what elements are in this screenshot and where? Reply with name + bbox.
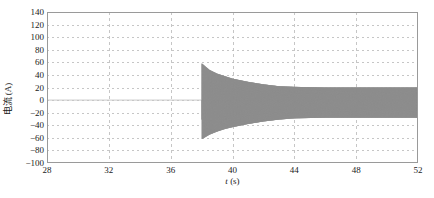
- y-tick-label: 0: [14, 96, 44, 105]
- plot-area: [47, 12, 418, 163]
- x-tick-label: 32: [96, 165, 122, 175]
- y-tick-label: 40: [14, 70, 44, 79]
- trace-oscillation: [202, 64, 418, 139]
- plot-svg: [47, 12, 418, 163]
- y-tick-label: 20: [14, 83, 44, 92]
- series-current-trace: [47, 64, 418, 139]
- y-tick-label: 140: [14, 8, 44, 17]
- y-tick-label: 60: [14, 58, 44, 67]
- x-tick-label: 36: [158, 165, 184, 175]
- y-tick-label: 120: [14, 20, 44, 29]
- y-tick-label: 100: [14, 33, 44, 42]
- y-tick-label: −40: [14, 121, 44, 130]
- y-tick-label: −80: [14, 146, 44, 155]
- y-tick-label: 80: [14, 45, 44, 54]
- y-tick-label: −20: [14, 108, 44, 117]
- x-axis-title: t (s): [47, 176, 418, 186]
- y-axis-tick-labels: −100−80−60−40−20020406080100120140: [12, 12, 44, 163]
- x-tick-label: 40: [220, 165, 246, 175]
- x-tick-label: 48: [343, 165, 369, 175]
- x-tick-label: 28: [34, 165, 60, 175]
- x-axis-title-unit: (s): [228, 176, 240, 186]
- y-tick-label: −60: [14, 133, 44, 142]
- x-tick-label: 52: [405, 165, 431, 175]
- x-tick-label: 44: [281, 165, 307, 175]
- figure-current-waveform: 电流 (A) −100−80−60−40−2002040608010012014…: [0, 0, 434, 198]
